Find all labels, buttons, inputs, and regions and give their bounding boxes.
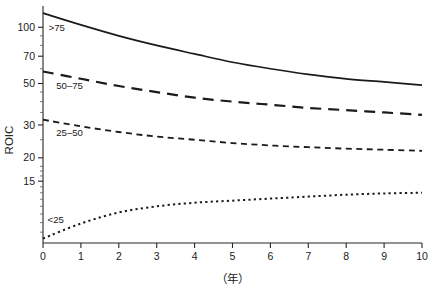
roic-decay-chart: 1007050302015 012345678910 ROIC （年） >755…: [0, 0, 435, 296]
chart-canvas: 1007050302015 012345678910 ROIC （年） >755…: [0, 0, 435, 296]
y-tick-label: 30: [23, 119, 35, 131]
x-tick-label: 7: [305, 250, 311, 262]
x-tick-label: 1: [78, 250, 84, 262]
x-tick-label: 0: [40, 250, 46, 262]
series-label-0: >75: [49, 22, 65, 33]
series-line-2: [43, 120, 422, 151]
x-tick-label: 3: [154, 250, 160, 262]
x-tick-label: 10: [416, 250, 428, 262]
series-label-1: 50–75: [56, 80, 83, 91]
x-tick-label: 8: [343, 250, 349, 262]
y-tick-label: 15: [23, 175, 35, 187]
x-tick-label: 9: [381, 250, 387, 262]
series-label-2: 25–50: [56, 127, 83, 138]
x-tick-label: 4: [192, 250, 198, 262]
y-axis-major-ticks: [38, 27, 43, 181]
x-axis-tick-labels: 012345678910: [40, 250, 428, 262]
x-tick-label: 6: [267, 250, 273, 262]
series-line-1: [43, 71, 422, 114]
y-tick-label: 20: [23, 151, 35, 163]
y-tick-label: 50: [23, 77, 35, 89]
x-tick-label: 2: [116, 250, 122, 262]
y-tick-label: 100: [17, 21, 35, 33]
x-axis-title: （年）: [216, 272, 249, 285]
series-line-0: [43, 13, 422, 85]
series-label-3: <25: [48, 214, 64, 225]
series-line-3: [43, 193, 422, 239]
series-curves: [43, 13, 422, 238]
y-tick-label: 70: [23, 50, 35, 62]
y-axis-title: ROIC: [3, 126, 15, 155]
x-tick-label: 5: [230, 250, 236, 262]
y-axis-tick-labels: 1007050302015: [17, 21, 35, 187]
x-axis-major-ticks: [43, 243, 422, 248]
